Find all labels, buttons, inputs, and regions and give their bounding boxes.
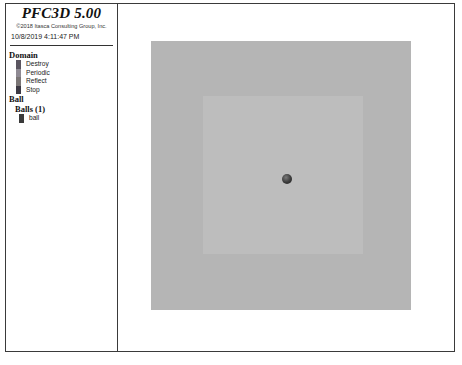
legend-item-stop: Stop xyxy=(16,86,117,95)
legend-item-label: Destroy xyxy=(26,60,49,68)
periodic-swatch-icon xyxy=(16,69,21,78)
reflect-swatch-icon xyxy=(16,77,21,86)
legend-ball-heading: Ball xyxy=(9,94,117,104)
legend-item-label: Stop xyxy=(26,86,40,94)
timestamp: 10/8/2019 4:11:47 PM xyxy=(11,32,117,42)
legend-item-label: Periodic xyxy=(26,69,50,77)
ball-swatch-icon xyxy=(19,114,24,123)
domain-boundary xyxy=(151,41,411,310)
stop-swatch-icon xyxy=(16,86,21,95)
ball-particle xyxy=(282,174,292,184)
legend-item-ball: ball xyxy=(19,114,117,123)
legend-balls-subheading: Balls (1) xyxy=(15,104,117,114)
legend-item-label: Reflect xyxy=(26,77,47,85)
legend-separator xyxy=(10,45,113,46)
model-viewport[interactable] xyxy=(118,4,454,351)
legend-item-destroy: Destroy xyxy=(16,60,117,69)
legend-item-reflect: Reflect xyxy=(16,77,117,86)
destroy-swatch-icon xyxy=(16,60,21,69)
legend-item-label: ball xyxy=(29,114,39,122)
legend-panel: PFC3D 5.00 ©2018 Itasca Consulting Group… xyxy=(6,4,118,351)
legend-item-periodic: Periodic xyxy=(16,69,117,78)
legend-domain-heading: Domain xyxy=(9,50,117,60)
plot-frame: PFC3D 5.00 ©2018 Itasca Consulting Group… xyxy=(5,3,455,352)
app-title: PFC3D 5.00 xyxy=(6,5,117,21)
copyright-text: ©2018 Itasca Consulting Group, Inc. xyxy=(6,22,117,30)
